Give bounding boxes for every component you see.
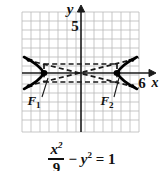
focus-label-f1-subscript: 1 xyxy=(36,100,41,110)
equation-minus-operator: − xyxy=(68,151,77,167)
fraction-x-squared-over-9: x2 9 xyxy=(48,142,64,171)
focus-label-f1-letter: F xyxy=(26,93,36,108)
x-tick-label-6: 6 xyxy=(138,75,146,91)
numerator-variable: x xyxy=(50,141,58,157)
focus-label-f2-subscript: 2 xyxy=(109,100,114,110)
equation-remainder: − y2 = 1 xyxy=(64,152,115,167)
numerator-exponent: 2 xyxy=(58,140,63,150)
y-axis-arrowhead xyxy=(77,5,84,12)
fraction-numerator: x2 xyxy=(48,142,64,158)
equation-term2-exponent: 2 xyxy=(87,150,92,160)
equation-right-side: 1 xyxy=(108,151,116,167)
focus-label-f2-letter: F xyxy=(99,93,109,108)
equation-caption: x2 9 − y2 = 1 xyxy=(0,141,164,171)
y-tick-label-5: 5 xyxy=(71,18,79,34)
focus-label-f1: F1 xyxy=(26,93,41,110)
fraction-denominator: 9 xyxy=(48,160,64,171)
focus-point-left xyxy=(41,70,48,76)
y-axis-label: y xyxy=(65,1,74,17)
focus-point-right xyxy=(114,70,121,76)
equation-equals-sign: = xyxy=(96,151,105,167)
x-axis-label: x xyxy=(151,75,159,90)
